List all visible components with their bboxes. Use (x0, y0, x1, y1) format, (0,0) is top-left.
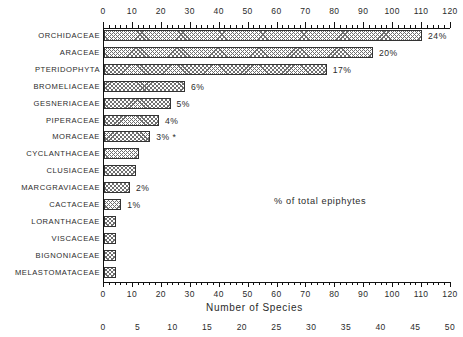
bottom-tick-68 (300, 282, 301, 285)
top-tick-100 (392, 22, 393, 28)
category-label-row: ARACEAE (0, 48, 100, 57)
top-tick-68 (300, 25, 301, 28)
top-tick-label: 0 (100, 6, 105, 16)
x-axis-title: Number of Species (160, 302, 303, 313)
bar (104, 30, 422, 41)
top-tick-28 (184, 25, 185, 28)
bar (104, 115, 159, 126)
category-label: CACTACEAE (0, 200, 100, 209)
top-tick-78 (329, 25, 330, 28)
top-tick-36 (207, 25, 208, 28)
category-label: PTERIDOPHYTA (0, 65, 100, 74)
bottom-tick-74 (317, 282, 318, 285)
bottom-tick-36 (207, 282, 208, 285)
top-tick-label: 90 (358, 6, 368, 16)
bottom-tick-40 (219, 282, 220, 287)
top-tick-32 (196, 25, 197, 28)
bottom-tick-90 (363, 282, 364, 287)
bottom-tick-114 (433, 282, 434, 285)
bar-percent-label: 2% (136, 183, 149, 193)
category-label: CLUSIACEAE (0, 166, 100, 175)
category-label-row: ORCHIDACEAE (0, 31, 100, 40)
bottom-tick-54 (259, 282, 260, 285)
bottom-tick-label: 80 (329, 289, 339, 299)
top-tick-84 (346, 25, 347, 28)
bottom-tick-32 (196, 282, 197, 285)
bar-percent-label: 6% (191, 82, 204, 92)
top-tick-14 (143, 25, 144, 28)
bottom-tick-label: 100 (384, 289, 399, 299)
top-tick-20 (161, 22, 162, 28)
top-tick-54 (259, 25, 260, 28)
top-tick-label: 50 (242, 6, 252, 16)
bottom-tick-76 (323, 282, 324, 285)
top-tick-58 (271, 25, 272, 28)
bar (104, 165, 136, 176)
bar (104, 267, 116, 278)
top-tick-52 (253, 25, 254, 28)
top-tick-8 (126, 25, 127, 28)
top-tick-114 (433, 25, 434, 28)
top-tick-16 (149, 25, 150, 28)
top-tick-86 (352, 25, 353, 28)
top-tick-102 (398, 25, 399, 28)
bottom-tick-98 (386, 282, 387, 285)
bottom-tick-44 (230, 282, 231, 285)
top-tick-label: 70 (300, 6, 310, 16)
category-label: GESNERIACEAE (0, 99, 100, 108)
category-label-row: VISCACEAE (0, 234, 100, 243)
bottom-tick-104 (404, 282, 405, 285)
category-label: PIPERACEAE (0, 116, 100, 125)
bottom-tick-42 (224, 282, 225, 285)
top-tick-70 (305, 22, 306, 28)
category-label-row: CLUSIACEAE (0, 166, 100, 175)
top-tick-74 (317, 25, 318, 28)
percent-tick-label: 15 (202, 322, 212, 332)
bottom-tick-78 (329, 282, 330, 285)
top-tick-76 (323, 25, 324, 28)
top-tick-64 (288, 25, 289, 28)
top-tick-label: 100 (384, 6, 399, 16)
bottom-tick-22 (167, 282, 168, 285)
category-label-row: PTERIDOPHYTA (0, 65, 100, 74)
top-tick-112 (427, 25, 428, 28)
bar (104, 98, 171, 109)
top-tick-88 (357, 25, 358, 28)
category-label: BIGNONIACEAE (0, 251, 100, 260)
top-tick-60 (277, 22, 278, 28)
bottom-tick-2 (109, 282, 110, 285)
bottom-tick-label: 60 (271, 289, 281, 299)
category-label-row: CYCLANTHACEAE (0, 149, 100, 158)
top-tick-120 (450, 22, 451, 28)
bottom-tick-82 (340, 282, 341, 285)
top-tick-18 (155, 25, 156, 28)
bottom-tick-6 (120, 282, 121, 285)
percent-tick-label: 20 (237, 322, 247, 332)
bottom-tick-24 (172, 282, 173, 285)
top-tick-22 (167, 25, 168, 28)
bottom-tick-92 (369, 282, 370, 285)
top-tick-104 (404, 25, 405, 28)
bottom-tick-38 (213, 282, 214, 285)
percent-tick-label: 45 (410, 322, 420, 332)
top-tick-82 (340, 25, 341, 28)
top-tick-6 (120, 25, 121, 28)
bar (104, 250, 116, 261)
bottom-tick-106 (410, 282, 411, 285)
top-tick-label: 110 (414, 6, 429, 16)
category-label: MELASTOMATACEAE (0, 268, 100, 277)
bottom-tick-label: 20 (156, 289, 166, 299)
bottom-tick-100 (392, 282, 393, 287)
top-tick-80 (334, 22, 335, 28)
top-tick-2 (109, 25, 110, 28)
top-tick-12 (138, 25, 139, 28)
bar-percent-label: 20% (379, 48, 398, 58)
bottom-tick-70 (305, 282, 306, 287)
top-tick-30 (190, 22, 191, 28)
bottom-tick-label: 0 (100, 289, 105, 299)
percent-tick-label: 0 (100, 322, 105, 332)
bar (104, 216, 116, 227)
bottom-tick-30 (190, 282, 191, 287)
top-tick-96 (381, 25, 382, 28)
bottom-tick-84 (346, 282, 347, 285)
